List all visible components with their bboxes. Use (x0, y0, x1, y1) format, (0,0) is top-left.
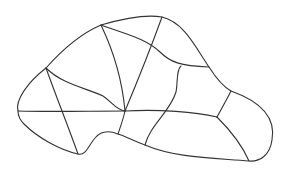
partition-diagram (0, 0, 283, 170)
internal-edge-11 (145, 66, 181, 145)
internal-edge-2 (125, 110, 217, 117)
internal-edge-9 (125, 17, 162, 111)
internal-edge-4 (217, 117, 249, 161)
outer-boundary (18, 16, 273, 161)
internal-edges-group (18, 17, 249, 161)
internal-edge-6 (46, 68, 125, 111)
internal-edge-7 (101, 25, 125, 111)
internal-edge-8 (118, 111, 125, 134)
internal-edge-10 (101, 25, 209, 67)
outer-boundary-group (18, 16, 273, 161)
internal-edge-3 (217, 91, 231, 117)
